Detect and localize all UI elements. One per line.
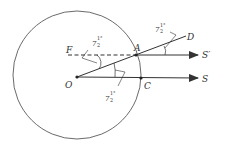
angle-label-top-right: 7 1 2 ° <box>155 22 166 34</box>
point-c <box>139 76 142 79</box>
label-s-prime: S′ <box>202 50 210 60</box>
circle <box>13 11 141 139</box>
point-o <box>75 75 78 78</box>
ray-o-s <box>77 77 198 78</box>
label-s: S <box>202 74 208 84</box>
leader-left <box>82 50 97 63</box>
label-d: D <box>186 32 194 42</box>
label-o: O <box>65 80 73 90</box>
svg-text:2: 2 <box>160 28 163 34</box>
angle-label-bottom: 7 1 2 ° <box>105 90 116 103</box>
svg-text:2: 2 <box>97 42 100 48</box>
svg-text:2: 2 <box>110 97 113 103</box>
label-f: F <box>65 45 73 55</box>
label-c: C <box>144 81 151 91</box>
angle-arc-f <box>97 55 101 69</box>
label-a: A <box>133 43 141 53</box>
diagram-canvas: F A D S′ S O C 7 1 2 ° 7 1 2 ° 7 1 2 ° <box>0 0 225 149</box>
svg-text:°: ° <box>100 35 103 41</box>
point-a <box>134 53 137 56</box>
leader-bottom <box>115 70 125 86</box>
svg-text:°: ° <box>113 90 116 96</box>
svg-text:°: ° <box>163 22 166 28</box>
angle-label-left: 7 1 2 ° <box>92 35 103 48</box>
